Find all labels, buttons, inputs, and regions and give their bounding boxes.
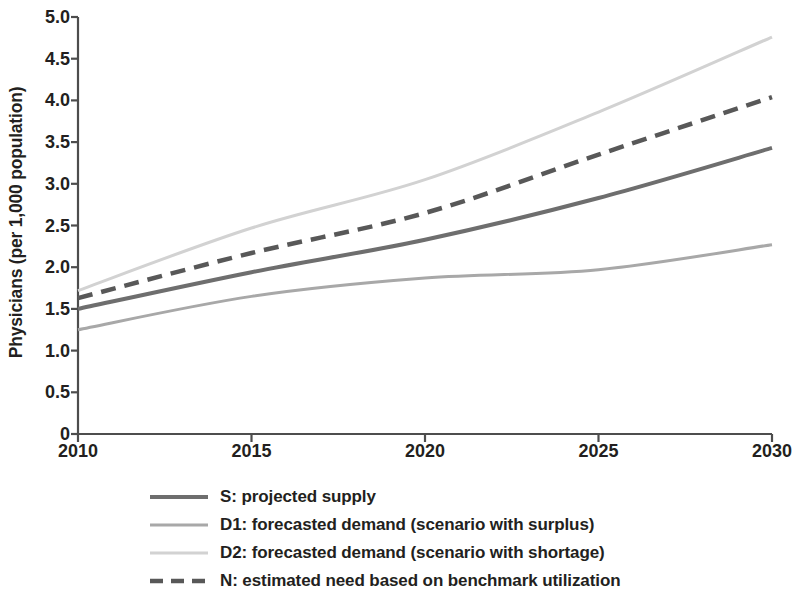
legend-line-swatch-icon [150, 518, 208, 532]
x-axis-tick-label: 2015 [231, 441, 271, 462]
legend-item-label: N: estimated need based on benchmark uti… [220, 571, 620, 591]
legend-line-swatch-icon [150, 490, 208, 504]
legend-line-swatch-icon [150, 574, 208, 588]
y-axis-title: Physicians (per 1,000 population) [0, 0, 34, 445]
x-axis-tick-label: 2020 [405, 441, 445, 462]
legend-line-swatch-icon [150, 546, 208, 560]
legend-item: S: projected supply [150, 483, 770, 511]
x-axis-tick-labels: 20102015202020252030 [34, 0, 789, 470]
x-axis-tick-label: 2010 [58, 441, 98, 462]
x-axis-tick-label: 2025 [578, 441, 618, 462]
legend-item-label: D1: forecasted demand (scenario with sur… [220, 515, 594, 535]
legend-item: D1: forecasted demand (scenario with sur… [150, 511, 770, 539]
legend-item: D2: forecasted demand (scenario with sho… [150, 539, 770, 567]
legend-item: N: estimated need based on benchmark uti… [150, 567, 770, 595]
y-axis-title-text: Physicians (per 1,000 population) [7, 87, 28, 359]
x-axis-tick-label: 2030 [752, 441, 792, 462]
chart-legend: S: projected supplyD1: forecasted demand… [150, 483, 770, 595]
legend-item-label: S: projected supply [220, 487, 376, 507]
legend-item-label: D2: forecasted demand (scenario with sho… [220, 543, 605, 563]
